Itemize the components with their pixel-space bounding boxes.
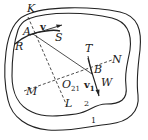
arrowhead-v [56, 25, 62, 29]
label-o: O [62, 78, 71, 91]
label-o21: O21 [62, 79, 80, 93]
label-region-1: 1 [91, 117, 96, 125]
label-r: R [15, 41, 23, 52]
label-region-2: 2 [84, 100, 89, 108]
label-v1-sub: 1 [90, 84, 95, 93]
label-k: K [27, 3, 35, 14]
label-t: T [85, 43, 92, 54]
arrowhead-v1 [96, 90, 100, 97]
label-b: B [94, 64, 102, 75]
diagram-canvas [0, 0, 148, 140]
label-o-sub: 21 [71, 85, 80, 93]
label-v1: v1 [84, 80, 95, 92]
label-s: S [55, 32, 63, 43]
label-a: A [23, 26, 31, 37]
label-l: L [65, 98, 72, 109]
label-n: N [112, 54, 122, 65]
label-v: v [40, 22, 46, 32]
label-w: W [101, 77, 112, 88]
label-m: M [26, 86, 37, 97]
